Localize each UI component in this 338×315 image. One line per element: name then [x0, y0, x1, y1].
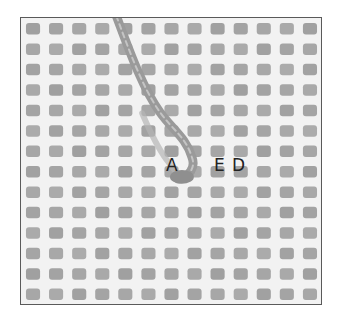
mesh-hole — [211, 268, 225, 280]
mesh-hole — [49, 146, 63, 158]
mesh-hole — [303, 64, 317, 76]
mesh-hole — [257, 227, 271, 239]
mesh-hole — [187, 23, 201, 35]
mesh-hole — [280, 166, 294, 178]
mesh-hole — [118, 84, 132, 96]
mesh-hole — [118, 125, 132, 137]
mesh-hole — [303, 43, 317, 55]
mesh-hole — [303, 227, 317, 239]
mesh-hole — [72, 207, 86, 219]
mesh-hole — [257, 23, 271, 35]
mesh-hole — [95, 289, 109, 301]
mesh-hole — [187, 105, 201, 117]
mesh-hole — [280, 227, 294, 239]
mesh-hole — [95, 43, 109, 55]
point-label-d: D — [232, 155, 245, 175]
mesh-hole — [49, 186, 63, 198]
mesh-hole — [303, 105, 317, 117]
mesh-hole — [118, 248, 132, 260]
mesh-hole — [280, 43, 294, 55]
mesh-hole — [95, 207, 109, 219]
mesh-hole — [164, 43, 178, 55]
mesh-hole — [280, 125, 294, 137]
mesh-hole — [303, 289, 317, 301]
mesh-hole — [280, 268, 294, 280]
mesh-hole — [280, 64, 294, 76]
mesh-hole — [26, 125, 40, 137]
mesh-hole — [49, 166, 63, 178]
mesh-hole — [95, 105, 109, 117]
mesh-hole — [234, 105, 248, 117]
mesh-hole — [72, 23, 86, 35]
mesh-hole — [211, 105, 225, 117]
mesh-hole — [211, 23, 225, 35]
mesh-hole — [95, 23, 109, 35]
mesh-hole — [141, 186, 155, 198]
mesh-hole — [95, 166, 109, 178]
mesh-hole — [26, 23, 40, 35]
mesh-hole — [118, 166, 132, 178]
mesh-hole — [95, 146, 109, 158]
mesh-hole — [141, 227, 155, 239]
mesh-hole — [280, 146, 294, 158]
mesh-hole — [234, 125, 248, 137]
mesh-hole — [234, 248, 248, 260]
mesh-hole — [303, 146, 317, 158]
mesh-hole — [234, 84, 248, 96]
mesh-hole — [257, 84, 271, 96]
mesh-hole — [303, 125, 317, 137]
mesh-hole — [187, 268, 201, 280]
mesh-hole — [187, 84, 201, 96]
mesh-hole — [280, 105, 294, 117]
mesh-hole — [118, 105, 132, 117]
mesh-hole — [257, 186, 271, 198]
point-label-a: A — [166, 155, 178, 175]
mesh-hole — [257, 64, 271, 76]
mesh-hole — [164, 64, 178, 76]
mesh-hole — [234, 227, 248, 239]
mesh-hole — [280, 23, 294, 35]
mesh-hole — [72, 43, 86, 55]
mesh-hole — [72, 248, 86, 260]
mesh-hole — [187, 207, 201, 219]
mesh-hole — [26, 227, 40, 239]
mesh-hole — [49, 105, 63, 117]
mesh-hole — [49, 268, 63, 280]
mesh-hole — [95, 64, 109, 76]
mesh-hole — [141, 268, 155, 280]
mesh-hole — [234, 289, 248, 301]
mesh-hole — [95, 248, 109, 260]
mesh-hole — [49, 125, 63, 137]
mesh-hole — [234, 186, 248, 198]
mesh-hole — [187, 125, 201, 137]
mesh-hole — [234, 23, 248, 35]
mesh-hole — [72, 146, 86, 158]
mesh-hole — [234, 207, 248, 219]
mesh-hole — [72, 289, 86, 301]
mesh-hole — [303, 166, 317, 178]
mesh-hole — [211, 289, 225, 301]
mesh-hole — [118, 146, 132, 158]
mesh-hole — [280, 84, 294, 96]
mesh-hole — [49, 207, 63, 219]
mesh-hole — [164, 186, 178, 198]
mesh-hole — [141, 23, 155, 35]
mesh-hole — [303, 268, 317, 280]
mesh-hole — [72, 186, 86, 198]
mesh-hole — [257, 105, 271, 117]
point-label-e: E — [214, 155, 225, 175]
mesh-hole — [187, 227, 201, 239]
mesh-hole — [257, 43, 271, 55]
mesh-hole — [141, 289, 155, 301]
mesh-hole — [118, 227, 132, 239]
mesh-hole — [164, 84, 178, 96]
mesh-hole — [72, 227, 86, 239]
mesh-hole — [95, 186, 109, 198]
mesh-hole — [49, 23, 63, 35]
mesh-hole — [118, 268, 132, 280]
mesh-hole — [164, 207, 178, 219]
mesh-hole — [118, 207, 132, 219]
mesh-hole — [72, 125, 86, 137]
mesh-hole — [26, 64, 40, 76]
mesh-hole — [187, 248, 201, 260]
